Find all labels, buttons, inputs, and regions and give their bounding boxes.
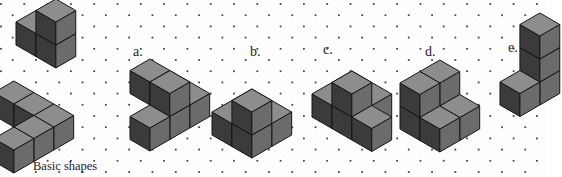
grid-dot bbox=[385, 14, 387, 16]
grid-dot bbox=[233, 70, 235, 72]
grid-dot bbox=[163, 160, 165, 162]
shape-b bbox=[210, 87, 294, 160]
grid-dot bbox=[443, 160, 445, 162]
grid-dot bbox=[117, 70, 119, 72]
grid-dot bbox=[82, 104, 84, 106]
grid-dot bbox=[245, 37, 247, 39]
grid-dot bbox=[408, 171, 410, 173]
grid-dot bbox=[233, 160, 235, 162]
grid-dot bbox=[303, 26, 305, 28]
grid-dot bbox=[82, 82, 84, 84]
grid-dot bbox=[221, 59, 223, 61]
grid-dot bbox=[489, 115, 491, 117]
grid-dot bbox=[140, 160, 142, 162]
grid-dot bbox=[385, 171, 387, 173]
grid-dot bbox=[303, 93, 305, 95]
grid-dot bbox=[513, 160, 515, 162]
grid-dot bbox=[245, 82, 247, 84]
grid-dot bbox=[280, 26, 282, 28]
grid-dot bbox=[187, 48, 189, 50]
grid-dot bbox=[291, 82, 293, 84]
grid-dot bbox=[152, 37, 154, 39]
grid-dot bbox=[291, 37, 293, 39]
grid-dot bbox=[198, 14, 200, 16]
grid-dot bbox=[117, 115, 119, 117]
grid-dot bbox=[233, 26, 235, 28]
grid-dot bbox=[489, 3, 491, 5]
grid-dot bbox=[303, 3, 305, 5]
grid-dot bbox=[256, 26, 258, 28]
grid-dot bbox=[187, 26, 189, 28]
grid-dot bbox=[245, 171, 247, 173]
grid-dot bbox=[326, 3, 328, 5]
grid-dot bbox=[280, 3, 282, 5]
grid-dot bbox=[489, 70, 491, 72]
grid-dot bbox=[105, 149, 107, 151]
shape-a bbox=[128, 57, 212, 153]
grid-dot bbox=[117, 138, 119, 140]
grid-dot bbox=[303, 115, 305, 117]
grid-dot bbox=[140, 3, 142, 5]
grid-dot bbox=[268, 37, 270, 39]
grid-dot bbox=[326, 160, 328, 162]
grid-dot bbox=[0, 3, 2, 5]
grid-dot bbox=[152, 171, 154, 173]
grid-dot bbox=[373, 26, 375, 28]
grid-dot bbox=[82, 14, 84, 16]
grid-dot bbox=[408, 14, 410, 16]
grid-dot bbox=[396, 3, 398, 5]
grid-dot bbox=[175, 171, 177, 173]
grid-dot bbox=[233, 48, 235, 50]
grid-dot bbox=[338, 37, 340, 39]
grid-dot bbox=[291, 59, 293, 61]
grid-dot bbox=[82, 59, 84, 61]
grid-dot bbox=[478, 171, 480, 173]
grid-dot bbox=[454, 14, 456, 16]
grid-dot bbox=[0, 48, 2, 50]
shape-d bbox=[398, 58, 482, 154]
grid-dot bbox=[513, 138, 515, 140]
grid-dot bbox=[93, 26, 95, 28]
grid-dot bbox=[373, 3, 375, 5]
grid-dot bbox=[221, 37, 223, 39]
grid-dot bbox=[443, 26, 445, 28]
grid-dot bbox=[489, 160, 491, 162]
shape-label-a: a. bbox=[133, 45, 143, 59]
grid-dot bbox=[163, 48, 165, 50]
grid-dot bbox=[291, 14, 293, 16]
grid-dot bbox=[93, 138, 95, 140]
grid-dot bbox=[315, 14, 317, 16]
grid-dot bbox=[350, 48, 352, 50]
grid-dot bbox=[536, 138, 538, 140]
grid-dot bbox=[315, 59, 317, 61]
grid-dot bbox=[105, 82, 107, 84]
grid-dot bbox=[105, 37, 107, 39]
grid-dot bbox=[396, 160, 398, 162]
grid-dot bbox=[93, 115, 95, 117]
grid-dot bbox=[128, 37, 130, 39]
grid-dot bbox=[443, 48, 445, 50]
grid-dot bbox=[338, 14, 340, 16]
grid-dot bbox=[93, 93, 95, 95]
grid-dot bbox=[117, 48, 119, 50]
grid-dot bbox=[117, 160, 119, 162]
grid-dot bbox=[221, 14, 223, 16]
grid-dot bbox=[280, 48, 282, 50]
grid-dot bbox=[105, 59, 107, 61]
grid-dot bbox=[268, 59, 270, 61]
grid-dot bbox=[489, 48, 491, 50]
grid-dot bbox=[256, 3, 258, 5]
grid-dot bbox=[338, 59, 340, 61]
grid-dot bbox=[431, 14, 433, 16]
grid-dot bbox=[187, 160, 189, 162]
grid-dot bbox=[47, 70, 49, 72]
grid-dot bbox=[443, 3, 445, 5]
grid-dot bbox=[489, 26, 491, 28]
grid-dot bbox=[210, 26, 212, 28]
basic-shape-upper bbox=[14, 0, 78, 70]
grid-dot bbox=[256, 70, 258, 72]
grid-dot bbox=[105, 104, 107, 106]
grid-dot bbox=[187, 3, 189, 5]
grid-dot bbox=[303, 70, 305, 72]
grid-dot bbox=[396, 26, 398, 28]
